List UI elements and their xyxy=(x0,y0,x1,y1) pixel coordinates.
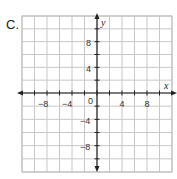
x-tick-label: 8 xyxy=(145,99,150,109)
origin-label: 0 xyxy=(88,96,93,106)
x-axis-left-arrow-icon xyxy=(17,91,23,96)
x-tick-label: −8 xyxy=(38,99,48,109)
coordinate-grid: y x 0 −8 −4 4 8 8 4 −4 −8 xyxy=(0,0,177,179)
y-tick-label: 4 xyxy=(86,64,91,74)
y-tick-label: 8 xyxy=(86,38,91,48)
x-axis-right-arrow-icon xyxy=(171,91,177,96)
y-tick-label: −4 xyxy=(80,116,90,126)
x-tick-label: −4 xyxy=(62,99,72,109)
x-axis-label: x xyxy=(163,80,169,91)
y-axis-label: y xyxy=(100,17,106,28)
y-tick-label: −8 xyxy=(80,142,90,152)
x-tick-label: 4 xyxy=(120,99,125,109)
y-axis-down-arrow-icon xyxy=(95,166,100,172)
